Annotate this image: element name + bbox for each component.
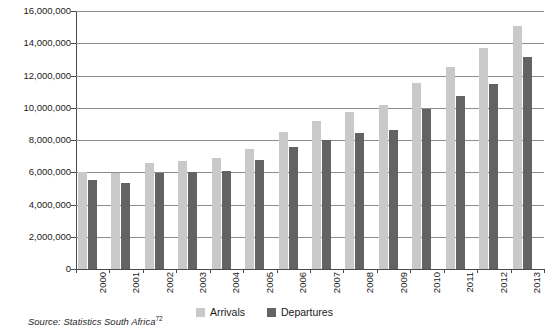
legend-label: Arrivals xyxy=(210,307,245,318)
x-axis-tick-mark xyxy=(143,269,144,273)
bar-arrivals-2008[interactable] xyxy=(345,112,354,269)
chart-legend: ArrivalsDepartures xyxy=(196,307,333,318)
bar-group xyxy=(444,11,477,269)
bar-arrivals-2010[interactable] xyxy=(412,83,421,269)
x-axis-labels: 2000200120022003200420052006200720082009… xyxy=(76,269,544,309)
legend-item-arrivals[interactable]: Arrivals xyxy=(196,307,245,318)
legend-label: Departures xyxy=(281,307,333,318)
x-axis-tick-mark xyxy=(477,269,478,273)
x-axis-tick-label: 2000 xyxy=(98,272,108,293)
x-axis-tick-mark xyxy=(243,269,244,273)
bar-group xyxy=(310,11,343,269)
y-axis-tick-label: 14,000,000 xyxy=(3,38,71,48)
bar-group xyxy=(377,11,410,269)
source-text: Source: Statistics South Africa xyxy=(28,316,155,327)
x-axis-tick-mark xyxy=(410,269,411,273)
bar-departures-2013[interactable] xyxy=(523,57,532,269)
x-axis-tick-mark xyxy=(444,269,445,273)
x-axis-tick-mark xyxy=(109,269,110,273)
x-axis-tick-mark xyxy=(176,269,177,273)
bar-group xyxy=(176,11,209,269)
bar-chart: 16,000,00014,000,00012,000,00010,000,000… xyxy=(0,0,548,330)
bar-departures-2004[interactable] xyxy=(222,171,231,269)
bar-departures-2012[interactable] xyxy=(489,84,498,269)
bar-arrivals-2012[interactable] xyxy=(479,48,488,269)
bar-group xyxy=(277,11,310,269)
y-axis-tick-label: 6,000,000 xyxy=(3,167,71,177)
bar-departures-2007[interactable] xyxy=(322,140,331,269)
bar-arrivals-2007[interactable] xyxy=(312,121,321,269)
bar-arrivals-2004[interactable] xyxy=(212,158,221,269)
x-axis-tick-mark xyxy=(511,269,512,273)
bar-departures-2001[interactable] xyxy=(121,183,130,269)
x-axis-tick-mark xyxy=(343,269,344,273)
bar-arrivals-2013[interactable] xyxy=(513,26,522,269)
y-axis-tick-label: 2,000,000 xyxy=(3,232,71,242)
legend-item-departures[interactable]: Departures xyxy=(267,307,333,318)
legend-swatch-icon xyxy=(267,308,276,317)
bar-group xyxy=(410,11,443,269)
x-axis-tick-mark xyxy=(377,269,378,273)
bar-group xyxy=(477,11,510,269)
x-axis-tick-mark xyxy=(76,269,77,273)
y-axis-tick-label: 0 xyxy=(3,264,71,274)
y-axis-tick-label: 12,000,000 xyxy=(3,71,71,81)
source-note: Source: Statistics South Africa72 xyxy=(28,313,163,327)
x-axis-tick-label: 2006 xyxy=(298,272,308,293)
bar-group xyxy=(511,11,544,269)
x-axis-tick-label: 2001 xyxy=(131,272,141,293)
bar-departures-2008[interactable] xyxy=(355,133,364,269)
bar-group xyxy=(76,11,109,269)
legend-swatch-icon xyxy=(196,308,205,317)
bar-arrivals-2009[interactable] xyxy=(379,105,388,269)
y-axis-tick-label: 4,000,000 xyxy=(3,200,71,210)
x-axis-tick-label: 2010 xyxy=(432,272,442,293)
x-axis-tick-label: 2002 xyxy=(165,272,175,293)
y-axis-tick-label: 10,000,000 xyxy=(3,103,71,113)
bar-group xyxy=(210,11,243,269)
y-axis-tick-label: 16,000,000 xyxy=(3,6,71,16)
bar-arrivals-2000[interactable] xyxy=(78,172,87,269)
bar-arrivals-2011[interactable] xyxy=(446,67,455,269)
x-axis-tick-label: 2005 xyxy=(265,272,275,293)
bar-departures-2000[interactable] xyxy=(88,180,97,269)
bar-arrivals-2006[interactable] xyxy=(279,132,288,269)
y-axis-tick-label: 8,000,000 xyxy=(3,135,71,145)
bar-departures-2006[interactable] xyxy=(289,147,298,269)
x-axis-tick-mark xyxy=(277,269,278,273)
bar-arrivals-2002[interactable] xyxy=(145,163,154,269)
bar-group xyxy=(243,11,276,269)
bar-arrivals-2001[interactable] xyxy=(111,173,120,269)
y-axis-labels: 16,000,00014,000,00012,000,00010,000,000… xyxy=(0,0,71,330)
x-axis-tick-label: 2004 xyxy=(231,272,241,293)
x-axis-tick-label: 2013 xyxy=(532,272,542,293)
source-footnote-marker: 72 xyxy=(155,315,162,322)
bar-departures-2003[interactable] xyxy=(188,172,197,269)
x-axis-tick-mark xyxy=(210,269,211,273)
x-axis-tick-mark xyxy=(310,269,311,273)
x-axis-tick-mark xyxy=(544,269,545,273)
x-axis-tick-label: 2009 xyxy=(399,272,409,293)
bar-arrivals-2003[interactable] xyxy=(178,161,187,269)
bar-group xyxy=(143,11,176,269)
bar-group xyxy=(109,11,142,269)
bar-departures-2011[interactable] xyxy=(456,96,465,269)
x-axis-tick-label: 2007 xyxy=(332,272,342,293)
plot-area xyxy=(76,11,544,269)
bar-group xyxy=(343,11,376,269)
bar-departures-2005[interactable] xyxy=(255,160,264,269)
bar-departures-2010[interactable] xyxy=(422,109,431,269)
x-axis-tick-label: 2003 xyxy=(198,272,208,293)
bar-arrivals-2005[interactable] xyxy=(245,149,254,269)
x-axis-tick-label: 2008 xyxy=(365,272,375,293)
bars-layer xyxy=(76,11,544,269)
x-axis-tick-label: 2012 xyxy=(499,272,509,293)
bar-departures-2009[interactable] xyxy=(389,130,398,269)
x-axis-tick-label: 2011 xyxy=(465,272,475,292)
bar-departures-2002[interactable] xyxy=(155,173,164,269)
